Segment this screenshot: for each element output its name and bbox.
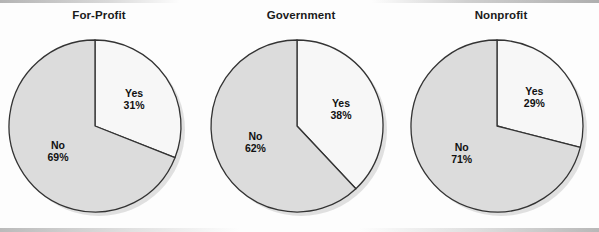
chart-title: For-Profit [6, 9, 192, 21]
pie-svg [208, 37, 394, 223]
pie-svg [408, 37, 594, 223]
pie-chart-government: Government Yes 38% No 62% [208, 0, 394, 232]
pie-chart-figure: For-Profit Yes 31% No 69% Government Yes… [0, 0, 599, 232]
pie-graphic [208, 37, 394, 227]
chart-title: Nonprofit [408, 9, 594, 21]
pie-chart-for-profit: For-Profit Yes 31% No 69% [6, 0, 192, 232]
pie-svg [6, 37, 192, 223]
pie-graphic [6, 37, 192, 227]
chart-title: Government [208, 9, 394, 21]
pie-graphic [408, 37, 594, 227]
pie-chart-nonprofit: Nonprofit Yes 29% No 71% [408, 0, 594, 232]
